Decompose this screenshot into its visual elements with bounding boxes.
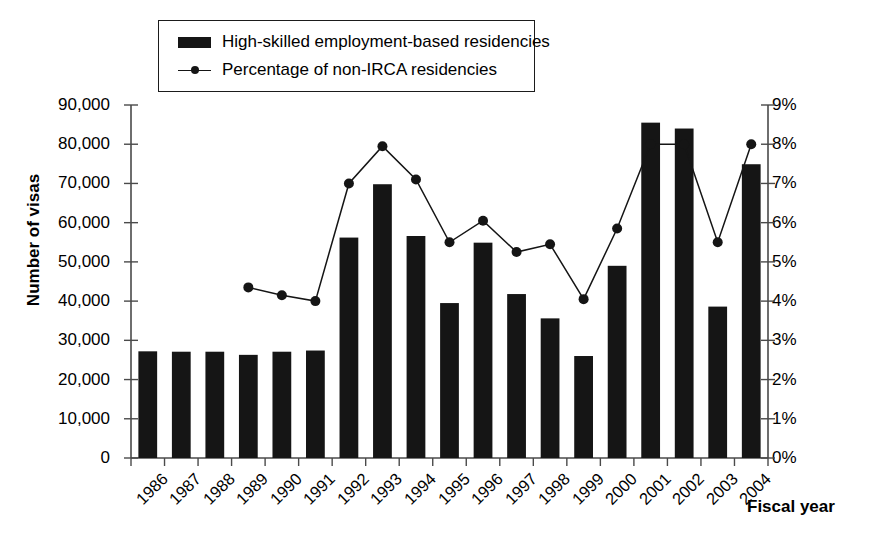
legend-item-line: Percentage of non-IRCA residencies bbox=[159, 56, 534, 84]
bar-1997 bbox=[507, 294, 526, 458]
bar-1993 bbox=[373, 184, 392, 458]
bar-1987 bbox=[172, 352, 191, 458]
line-marker-2000 bbox=[612, 224, 622, 234]
line-marker-1989 bbox=[243, 282, 253, 292]
line-marker-2004 bbox=[746, 139, 756, 149]
chart-legend: High-skilled employment-based residencie… bbox=[158, 20, 535, 92]
bar-2004 bbox=[742, 164, 761, 458]
line-marker-1997 bbox=[512, 247, 522, 257]
bar-1988 bbox=[205, 352, 224, 458]
legend-item-bars: High-skilled employment-based residencie… bbox=[159, 28, 534, 56]
bar-1999 bbox=[574, 356, 593, 458]
bar-series bbox=[138, 123, 760, 458]
bar-1992 bbox=[340, 238, 359, 458]
chart-figure: Number of visas Fiscal year 010,00020,00… bbox=[0, 0, 879, 553]
line-marker-1998 bbox=[545, 239, 555, 249]
line-marker-2001 bbox=[646, 139, 656, 149]
line-marker-1992 bbox=[344, 178, 354, 188]
legend-bar-swatch-icon bbox=[178, 37, 211, 48]
bar-1986 bbox=[138, 351, 157, 458]
bar-1998 bbox=[541, 318, 560, 458]
bar-1994 bbox=[407, 236, 426, 458]
line-marker-2003 bbox=[713, 237, 723, 247]
legend-line-marker-icon bbox=[178, 65, 211, 76]
bar-1990 bbox=[272, 352, 291, 458]
bar-2000 bbox=[608, 266, 627, 458]
bar-1996 bbox=[474, 243, 493, 458]
bar-1991 bbox=[306, 351, 325, 458]
bar-2002 bbox=[675, 129, 694, 458]
legend-label-line: Percentage of non-IRCA residencies bbox=[222, 60, 497, 80]
line-marker-1996 bbox=[478, 216, 488, 226]
bar-1989 bbox=[239, 355, 258, 458]
line-marker-1995 bbox=[445, 237, 455, 247]
line-marker-1994 bbox=[411, 175, 421, 185]
line-marker-2002 bbox=[679, 139, 689, 149]
bar-2001 bbox=[641, 123, 660, 458]
line-marker-1993 bbox=[377, 141, 387, 151]
line-marker-1991 bbox=[310, 296, 320, 306]
line-marker-1999 bbox=[579, 294, 589, 304]
bar-2003 bbox=[708, 307, 727, 458]
legend-label-bars: High-skilled employment-based residencie… bbox=[222, 32, 550, 52]
bar-1995 bbox=[440, 303, 459, 458]
line-marker-1990 bbox=[277, 290, 287, 300]
